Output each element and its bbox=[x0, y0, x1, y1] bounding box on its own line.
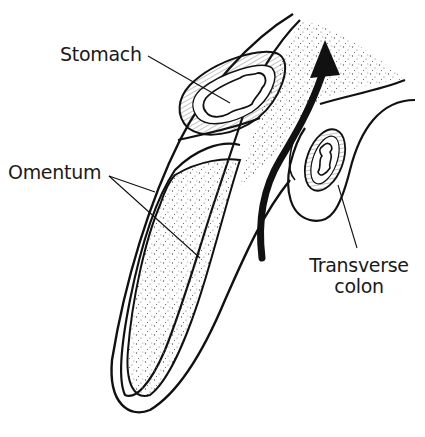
transverse-colon-leader-line bbox=[338, 185, 357, 248]
anatomy-diagram bbox=[0, 0, 425, 437]
transverse-colon-label-line1: Transverse bbox=[304, 255, 414, 276]
omentum-leader-line-1 bbox=[109, 176, 155, 192]
stomach-label: Stomach bbox=[60, 44, 142, 65]
transverse-colon-label: Transverse colon bbox=[304, 255, 414, 297]
transverse-colon-label-line2: colon bbox=[304, 276, 414, 297]
omentum-label: Omentum bbox=[8, 162, 101, 183]
